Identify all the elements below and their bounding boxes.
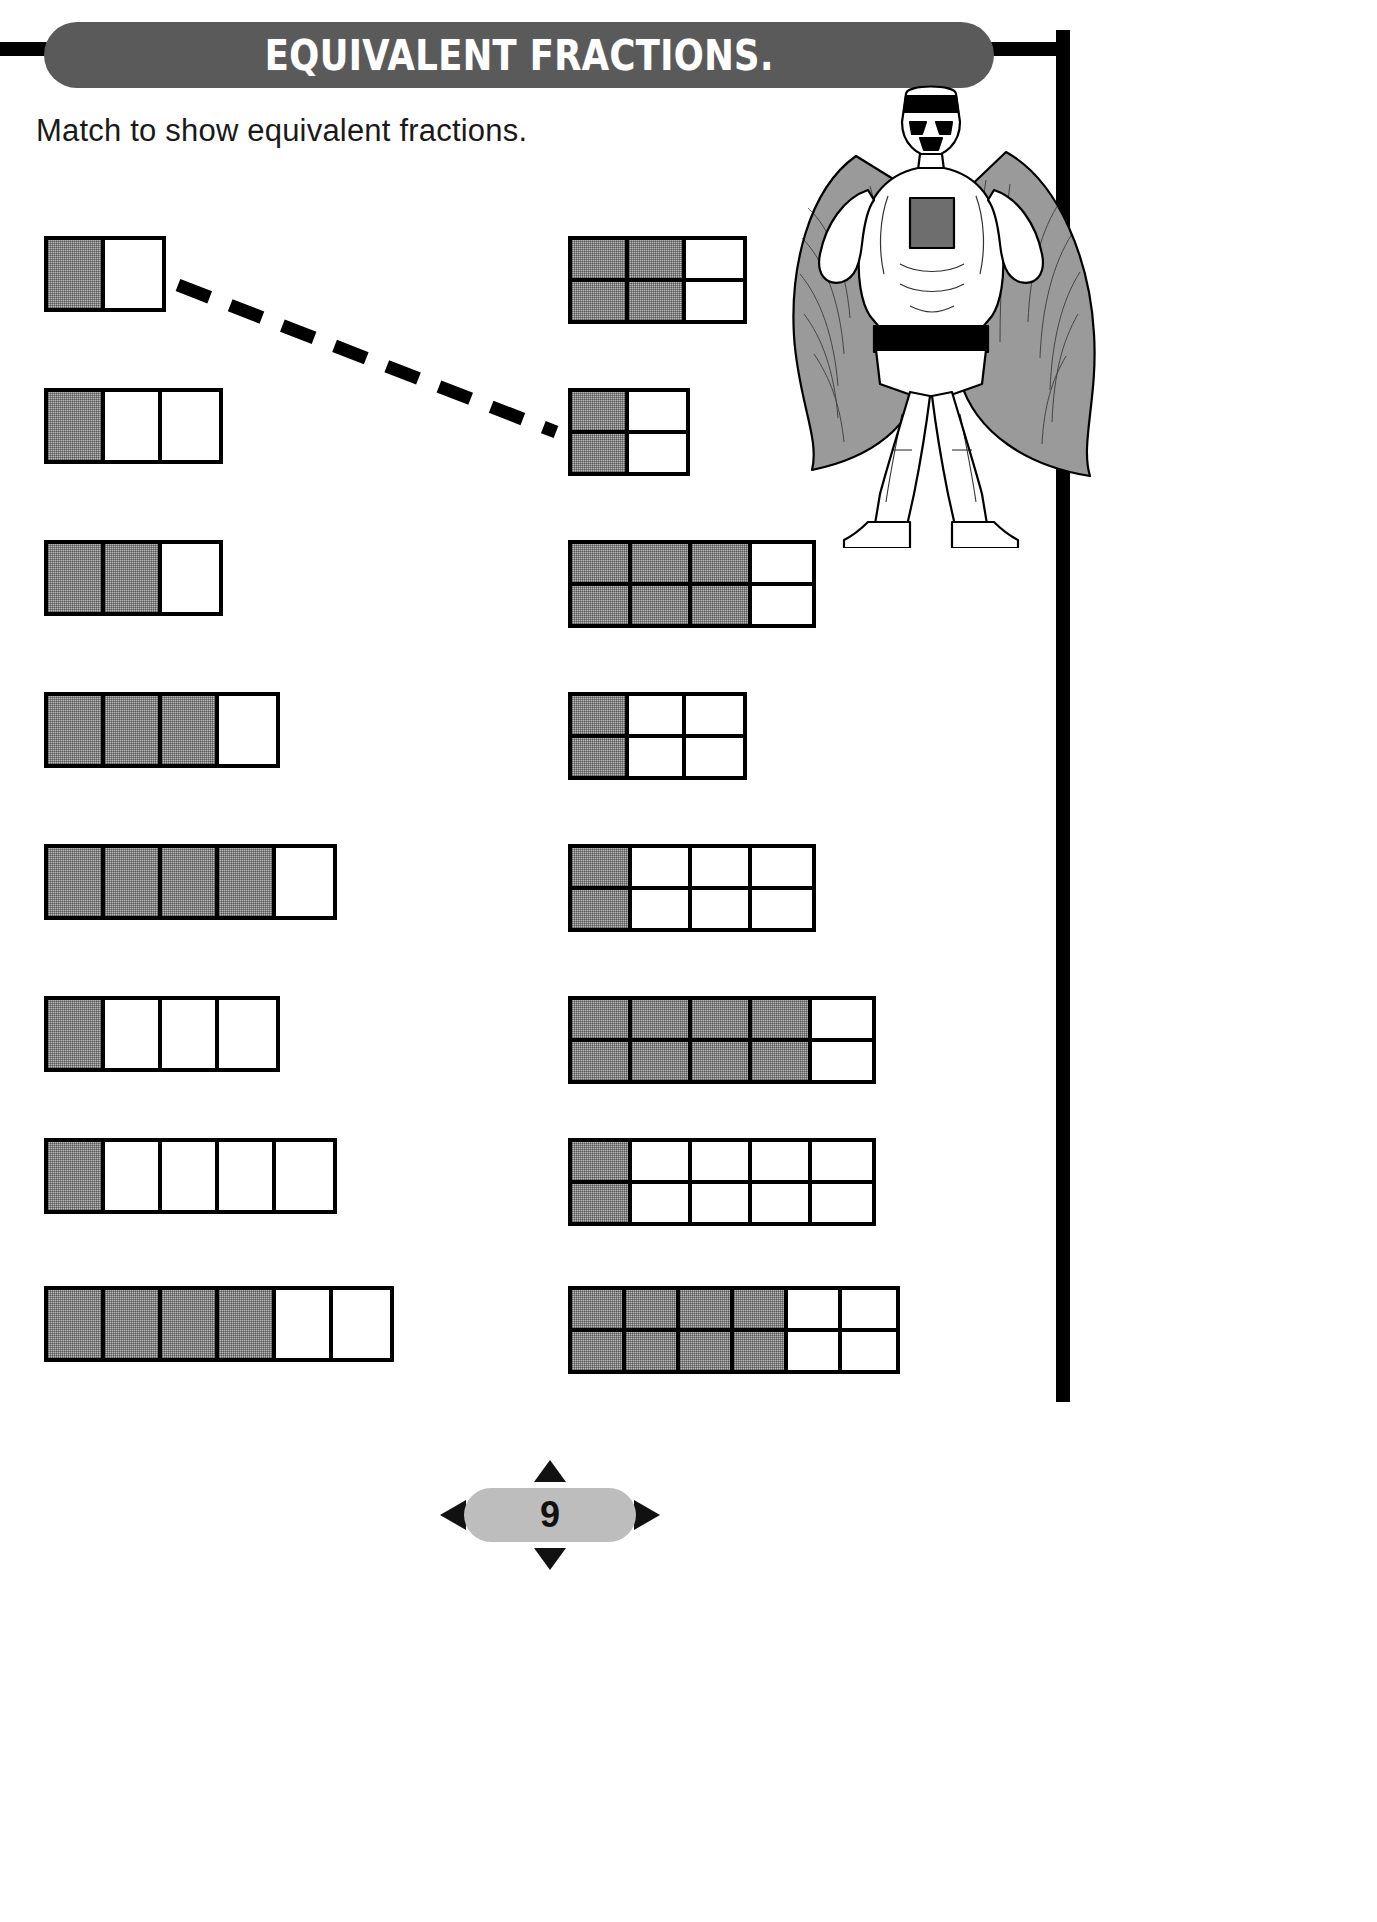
fraction-grid-right-3[interactable] [568, 540, 816, 628]
fraction-grid-row [572, 696, 743, 738]
fraction-cell [219, 1142, 276, 1210]
fraction-cell [572, 1184, 632, 1222]
fraction-cell [692, 544, 752, 582]
fraction-grid-row [572, 1042, 872, 1080]
fraction-cell [692, 1184, 752, 1222]
fraction-cell [752, 586, 812, 624]
fraction-cell [692, 586, 752, 624]
page-number: 9 [440, 1460, 660, 1570]
fraction-cell [692, 1142, 752, 1180]
fraction-grid-row [572, 434, 686, 472]
fraction-grid-right-7[interactable] [568, 1138, 876, 1226]
fraction-bar-left-2[interactable] [44, 388, 223, 464]
fraction-grid-right-2[interactable] [568, 388, 690, 476]
fraction-cell [105, 1290, 162, 1358]
fraction-bar-left-1[interactable] [44, 236, 166, 312]
fraction-bar-left-6[interactable] [44, 996, 280, 1072]
fraction-grid-row [572, 392, 686, 434]
fraction-cell [788, 1332, 842, 1370]
fraction-cell [105, 544, 162, 612]
fraction-cell [48, 1290, 105, 1358]
fraction-cell [105, 1000, 162, 1068]
fraction-cell [692, 1000, 752, 1038]
fraction-cell [48, 392, 105, 460]
fraction-grid-row [572, 738, 743, 776]
fraction-cell [632, 1184, 692, 1222]
fraction-grid-row [572, 890, 812, 928]
fraction-bar-left-8[interactable] [44, 1286, 394, 1362]
fraction-cell [572, 848, 632, 886]
fraction-cell [734, 1290, 788, 1328]
fraction-cell [692, 848, 752, 886]
fraction-cell [162, 544, 219, 612]
fraction-cell [680, 1332, 734, 1370]
fraction-cell [632, 1142, 692, 1180]
fraction-cell [48, 544, 105, 612]
fraction-cell [752, 544, 812, 582]
fraction-grid-right-1[interactable] [568, 236, 747, 324]
fraction-bar-left-7[interactable] [44, 1138, 337, 1214]
fraction-cell [692, 890, 752, 928]
fraction-cell [629, 738, 686, 776]
fraction-cell [686, 240, 743, 278]
fraction-grid-row [572, 1332, 896, 1370]
fraction-cell [692, 1042, 752, 1080]
fraction-cell [276, 1142, 333, 1210]
fraction-cell [752, 1042, 812, 1080]
fraction-cell [632, 1042, 692, 1080]
fraction-grid-row [572, 1000, 872, 1042]
fraction-cell [572, 240, 629, 278]
fraction-cell [680, 1290, 734, 1328]
fraction-grid-right-8[interactable] [568, 1286, 900, 1374]
fraction-grid-right-4[interactable] [568, 692, 747, 780]
fraction-grid-right-6[interactable] [568, 996, 876, 1084]
fraction-cell [162, 392, 219, 460]
fraction-cell [162, 848, 219, 916]
fraction-cell [105, 848, 162, 916]
fraction-cell [629, 434, 686, 472]
fraction-grid-row [572, 586, 812, 624]
fraction-cell [629, 392, 686, 430]
fraction-cell [632, 848, 692, 886]
page-border-top-right [985, 42, 1070, 56]
fraction-grid-row [572, 240, 743, 282]
fraction-cell [788, 1290, 842, 1328]
fraction-cell [812, 1184, 872, 1222]
fraction-cell [572, 1142, 632, 1180]
fraction-cell [48, 1000, 105, 1068]
fraction-cell [572, 1332, 626, 1370]
fraction-cell [812, 1000, 872, 1038]
fraction-cell [48, 240, 105, 308]
fraction-bar-left-3[interactable] [44, 540, 223, 616]
fraction-cell [812, 1042, 872, 1080]
fraction-cell [572, 1000, 632, 1038]
fraction-cell [105, 240, 162, 308]
fraction-grid-right-5[interactable] [568, 844, 816, 932]
page-title: EQUIVALENT FRACTIONS. [265, 30, 774, 80]
fraction-grid-row [572, 1184, 872, 1222]
fraction-cell [686, 282, 743, 320]
fraction-cell [105, 696, 162, 764]
fraction-cell [626, 1290, 680, 1328]
fraction-bar-left-4[interactable] [44, 692, 280, 768]
fraction-cell [572, 544, 632, 582]
fraction-cell [752, 1184, 812, 1222]
fraction-cell [632, 544, 692, 582]
fraction-cell [572, 586, 632, 624]
fraction-cell [276, 1290, 333, 1358]
fraction-cell [734, 1332, 788, 1370]
fraction-cell [572, 1042, 632, 1080]
fraction-cell [48, 848, 105, 916]
fraction-cell [276, 848, 333, 916]
fraction-cell [632, 1000, 692, 1038]
match-line-dashed[interactable] [178, 285, 556, 432]
fraction-cell [752, 890, 812, 928]
fraction-cell [162, 1142, 219, 1210]
fraction-grid-row [572, 544, 812, 586]
fraction-cell [572, 282, 629, 320]
fraction-cell [48, 696, 105, 764]
fraction-cell [105, 392, 162, 460]
fraction-cell [162, 1290, 219, 1358]
fraction-bar-left-5[interactable] [44, 844, 337, 920]
fraction-cell [626, 1332, 680, 1370]
